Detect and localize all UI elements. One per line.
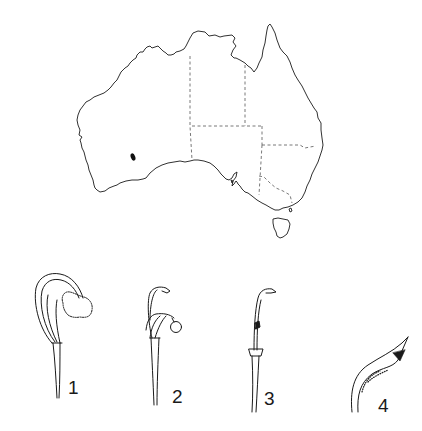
botanical-figure: 1 2 3 4 — [0, 0, 422, 431]
illustrations — [0, 260, 422, 431]
distribution-marker — [130, 153, 137, 162]
illustration-label-4: 4 — [378, 396, 389, 415]
coastline — [77, 24, 323, 238]
illustration-label-2: 2 — [172, 387, 183, 406]
illustration-1-drawing — [35, 274, 92, 398]
illustration-label-1: 1 — [68, 378, 79, 397]
illustration-label-3: 3 — [264, 389, 275, 408]
australia-distribution-map — [0, 0, 422, 260]
